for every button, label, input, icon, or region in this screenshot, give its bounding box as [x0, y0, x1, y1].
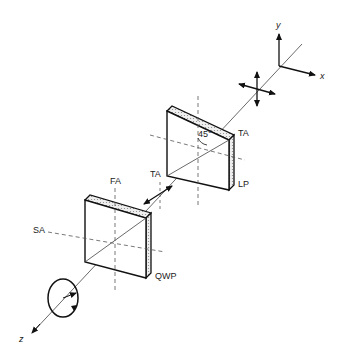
qwp-label: QWP [155, 271, 177, 281]
unpolarized-light-icon [239, 72, 275, 106]
lp-label: LP [238, 179, 249, 189]
x-axis-label: x [319, 71, 325, 81]
y-axis-label: y [275, 20, 281, 30]
fa-label: FA [110, 176, 121, 186]
circular-polarization-icon [48, 279, 78, 317]
polarizer-diagram: y x z 45° TA LP TA [0, 0, 344, 350]
ta-label: TA [150, 169, 161, 179]
sa-label: SA [33, 225, 45, 235]
quarter-wave-plate: FA SA QWP [33, 176, 177, 290]
z-axis-label: z [18, 334, 24, 344]
angle-label: 45° [198, 129, 212, 139]
linear-polarizer-plate: 45° TA LP [150, 96, 249, 205]
lp-ta-label: TA [238, 128, 249, 138]
